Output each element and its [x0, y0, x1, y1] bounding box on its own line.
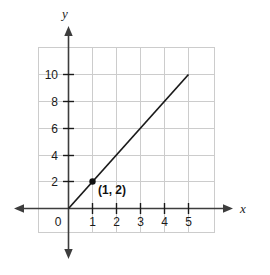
origin-label: 0: [55, 215, 62, 229]
y-axis-arrow-up-icon: [64, 26, 72, 36]
y-tick-label-6: 6: [51, 122, 58, 136]
data-point-marker: [89, 178, 95, 184]
y-tick-label-2: 2: [51, 175, 58, 189]
x-tick-label-3: 3: [137, 215, 144, 229]
line-series: [69, 75, 189, 209]
x-axis-arrow-right-icon: [223, 204, 233, 212]
x-tick-label-2: 2: [113, 215, 120, 229]
y-axis-arrow-down-icon: [64, 249, 72, 259]
x-tick-label-5: 5: [185, 215, 192, 229]
x-axis: [14, 204, 233, 212]
x-tick-labels: 1 2 3 4 5: [89, 215, 192, 229]
y-tick-label-4: 4: [51, 149, 58, 163]
y-tick-label-10: 10: [45, 68, 59, 82]
x-axis-label: x: [239, 201, 246, 216]
y-axis-label: y: [60, 6, 68, 21]
x-tick-label-4: 4: [161, 215, 168, 229]
y-axis: [64, 26, 72, 259]
data-point-label: (1, 2): [98, 183, 126, 197]
graph-canvas: 10 8 6 4 2 1 2 3 4 5 0 y x (1, 2): [0, 0, 270, 275]
x-tick-label-1: 1: [89, 215, 96, 229]
x-axis-arrow-left-icon: [14, 204, 24, 212]
coordinate-plane-figure: 10 8 6 4 2 1 2 3 4 5 0 y x (1, 2): [0, 0, 270, 275]
y-tick-label-8: 8: [51, 95, 58, 109]
